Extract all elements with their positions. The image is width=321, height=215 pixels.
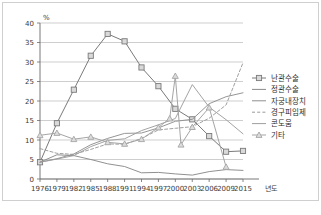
x-axis-unit-label: 년도 bbox=[265, 184, 278, 193]
legend-marker-0 bbox=[256, 75, 261, 80]
series-marker-5 bbox=[88, 134, 94, 139]
x-tick-label: 1985 bbox=[82, 185, 100, 193]
series-marker-5 bbox=[167, 116, 173, 122]
series-marker-0 bbox=[240, 148, 245, 153]
legend-label-2[interactable]: 자궁내장치 bbox=[271, 96, 306, 106]
x-tick-label: 2006 bbox=[200, 185, 218, 193]
series-marker-0 bbox=[71, 87, 76, 92]
y-tick-label: 30 bbox=[25, 59, 34, 67]
series-marker-5 bbox=[172, 73, 178, 78]
series-marker-5 bbox=[178, 142, 184, 147]
x-tick-label: 2000 bbox=[166, 185, 184, 193]
x-tick-label: 1994 bbox=[133, 185, 151, 193]
series-marker-0 bbox=[173, 106, 178, 111]
series-marker-0 bbox=[88, 53, 93, 58]
y-axis-unit-label: % bbox=[43, 14, 50, 22]
series-line-5 bbox=[40, 76, 226, 167]
x-tick-label: 1976 bbox=[31, 185, 49, 193]
y-tick-label: 20 bbox=[25, 98, 34, 106]
x-tick-label: 1979 bbox=[48, 185, 66, 193]
series-line-0 bbox=[40, 34, 243, 162]
chart-container: 0510152025303540%19761979198219851988199… bbox=[0, 0, 321, 215]
y-tick-label: 0 bbox=[30, 176, 34, 184]
series-marker-0 bbox=[223, 149, 228, 154]
legend-label-5[interactable]: 기타 bbox=[271, 131, 285, 140]
y-tick-label: 25 bbox=[25, 78, 34, 86]
x-tick-label: 2003 bbox=[183, 185, 201, 193]
series-marker-0 bbox=[207, 134, 212, 139]
series-line-1 bbox=[40, 155, 243, 175]
series-marker-0 bbox=[122, 39, 127, 44]
y-tick-label: 10 bbox=[25, 137, 34, 145]
y-tick-label: 5 bbox=[30, 156, 34, 164]
series-marker-0 bbox=[139, 65, 144, 70]
legend-label-0[interactable]: 난관수술 bbox=[271, 73, 299, 83]
x-tick-label: 2009 bbox=[217, 185, 235, 193]
x-tick-label: 1997 bbox=[150, 185, 168, 193]
series-marker-0 bbox=[105, 31, 110, 36]
x-tick-label: 1988 bbox=[99, 185, 117, 193]
x-tick-label: 1991 bbox=[116, 185, 134, 193]
x-tick-label: 1982 bbox=[65, 185, 83, 193]
y-tick-label: 15 bbox=[25, 117, 34, 125]
legend-label-1[interactable]: 정관수술 bbox=[271, 84, 299, 94]
series-marker-0 bbox=[156, 84, 161, 89]
line-chart: 0510152025303540%19761979198219851988199… bbox=[0, 0, 321, 215]
series-marker-5 bbox=[223, 164, 229, 169]
series-marker-0 bbox=[54, 121, 59, 126]
legend-label-4[interactable]: 콘도움 bbox=[271, 119, 292, 128]
y-tick-label: 35 bbox=[25, 39, 34, 47]
legend-label-3[interactable]: 경구피임제 bbox=[271, 107, 306, 117]
y-tick-label: 40 bbox=[25, 20, 34, 28]
series-line-2 bbox=[40, 93, 243, 162]
series-marker-5 bbox=[54, 130, 60, 135]
x-tick-label: 2015 bbox=[234, 185, 252, 193]
